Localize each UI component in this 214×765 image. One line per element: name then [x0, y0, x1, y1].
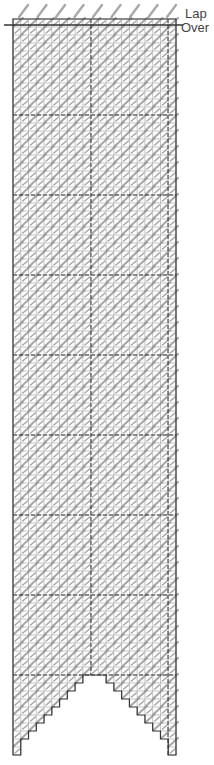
stitch-chart: [0, 0, 214, 765]
lap-label: Lap: [185, 7, 207, 21]
over-label: Over: [181, 21, 209, 35]
